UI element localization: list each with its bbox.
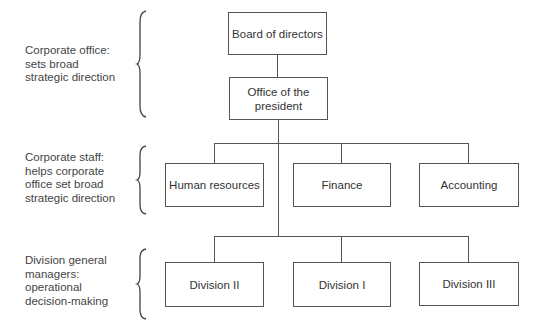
label-line: Corporate office:	[25, 44, 115, 58]
label-line: helps corporate	[25, 165, 115, 179]
label-line: office set broad	[25, 178, 115, 192]
connector-division-ii	[214, 236, 215, 262]
connector-board-president	[277, 54, 278, 77]
node-board-of-directors: Board of directors	[228, 12, 327, 55]
connector-staff-hr	[214, 143, 215, 163]
node-label: Division I	[319, 278, 366, 292]
node-label: Division III	[442, 277, 495, 291]
label-line: sets broad	[25, 58, 115, 72]
connector-staff-accounting	[468, 143, 469, 163]
label-line: Corporate staff:	[25, 151, 115, 165]
node-division-ii: Division II	[165, 262, 264, 307]
level-label-corporate-staff: Corporate staff: helps corporate office …	[25, 151, 115, 205]
node-human-resources: Human resources	[165, 163, 264, 207]
label-line: Division general	[25, 254, 108, 268]
connector-staff-finance	[341, 143, 342, 163]
level-label-corporate-office: Corporate office: sets broad strategic d…	[25, 44, 115, 85]
node-office-of-president: Office of the president	[229, 77, 328, 120]
level-label-division-managers: Division general managers: operational d…	[25, 254, 108, 308]
node-label: Office of the	[248, 85, 310, 99]
node-division-iii: Division III	[419, 262, 519, 306]
label-line: operational	[25, 281, 108, 295]
connector-trunk	[278, 119, 279, 236]
node-label: Division II	[190, 278, 240, 292]
label-line: strategic direction	[25, 71, 115, 85]
connector-division-iii	[468, 236, 469, 262]
node-accounting: Accounting	[419, 163, 519, 207]
node-finance: Finance	[293, 163, 391, 207]
label-line: managers:	[25, 268, 108, 282]
node-label: Board of directors	[232, 27, 323, 41]
node-label: Accounting	[441, 178, 498, 192]
brace-icon	[136, 145, 148, 215]
label-line: strategic direction	[25, 192, 115, 206]
node-label: president	[255, 99, 302, 113]
node-label: Human resources	[169, 178, 260, 192]
label-line: decision-making	[25, 295, 108, 309]
brace-icon	[136, 248, 148, 320]
node-division-i: Division I	[293, 262, 391, 307]
node-label: Finance	[322, 178, 363, 192]
brace-icon	[136, 10, 148, 118]
connector-division-i	[341, 236, 342, 262]
